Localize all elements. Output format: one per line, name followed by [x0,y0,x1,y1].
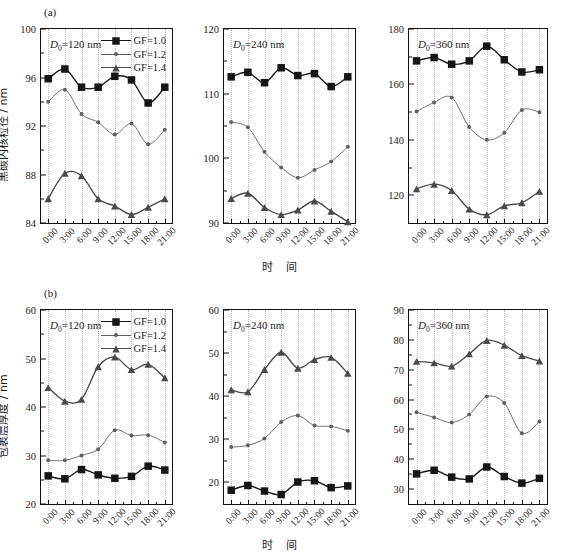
data-point-marker [227,486,235,494]
data-point-marker [536,358,544,365]
y-tick-label: 30 [26,450,42,461]
data-point-marker [44,75,52,83]
data-point-marker [501,56,509,64]
data-point-marker [46,458,50,462]
figure-caption [0,543,564,554]
data-point-marker [296,414,300,418]
data-point-marker [227,195,235,202]
y-tick-label: 90 [394,305,410,316]
plot-area-b-240: 20304050600:003:006:009:0012:0015:0018:0… [223,309,356,505]
legend-marker-icon [110,62,122,74]
data-point-marker [246,125,250,129]
data-point-marker [44,472,52,480]
plot-area-a-240: 901001101200:003:006:009:0012:0015:0018:… [223,28,356,224]
legend: GF=1.0GF=1.2GF=1.4 [101,315,166,356]
x-tick-label: 21:00 [530,506,552,528]
y-tick-label: 70 [394,364,410,375]
y-tick-label: 180 [388,24,409,35]
data-point-marker [296,176,300,180]
y-axis-label-b: 包裹层厚度 / nm [0,374,10,457]
data-point-marker [78,466,86,474]
legend-marker-icon [110,35,122,47]
data-point-marker [312,168,316,172]
data-point-marker [246,443,250,447]
data-point-marker [263,436,267,440]
y-tick-label: 120 [388,190,409,201]
series-layer [409,310,547,504]
data-point-marker [465,475,473,483]
legend-label: GF=1.4 [134,342,166,356]
data-point-marker [448,473,456,481]
series-line [231,193,348,222]
data-point-marker [61,170,69,177]
data-point-marker [46,100,50,104]
data-point-marker [229,120,233,124]
data-point-marker [44,384,52,391]
data-point-marker [518,352,526,359]
data-point-marker [80,112,84,116]
y-tick-label: 100 [203,153,224,164]
x-tick-label: 12:00 [477,225,499,247]
data-point-marker [61,398,69,405]
data-point-marker [501,342,509,349]
plot-area-b-120: 20304050600:003:006:009:0012:0015:0018:0… [40,309,173,505]
legend-item: GF=1.4 [101,342,166,356]
panel-a-360: 1201401601800:003:006:009:0012:0015:0018… [368,4,564,266]
figure-row-a: (a) 黑碳内核粒径 / nm 848892961000:003:006:009… [0,4,564,266]
data-point-marker [520,431,524,435]
y-tick-label: 40 [26,402,42,413]
x-tick-label: 0:00 [224,507,243,526]
data-point-marker [327,83,335,91]
data-point-marker [312,424,316,428]
data-point-marker [485,395,489,399]
data-point-marker [502,401,506,405]
y-tick-label: 100 [20,24,41,35]
y-tick-label: 50 [26,353,42,364]
data-point-marker [161,83,169,91]
panel-b-240: 20304050600:003:006:009:0012:0015:0018:0… [183,285,371,547]
x-tick-label: 3:00 [427,226,446,245]
x-tick-label: 3:00 [427,507,446,526]
data-point-marker [61,65,69,73]
y-axis-label-a: 黑碳内核粒径 / nm [0,88,10,182]
legend-line-swatch [101,67,131,68]
data-point-marker [144,462,152,470]
data-point-marker [346,145,350,149]
panel-label-b: (b) [44,287,57,299]
data-point-marker [227,73,235,81]
data-point-marker [129,122,133,126]
y-tick-label: 140 [388,134,409,145]
series-layer [224,310,355,504]
y-tick-label: 50 [394,424,410,435]
data-point-marker [537,420,541,424]
figure-root: (a) 黑碳内核粒径 / nm 848892961000:003:006:009… [0,0,564,554]
data-point-marker [483,463,491,471]
data-point-marker [467,125,471,129]
panel-b-360: 304050607080900:003:006:009:0012:0015:00… [368,285,564,547]
y-tick-label: 30 [394,484,410,495]
data-point-marker [44,195,52,202]
legend-item: GF=1.2 [101,48,166,62]
x-tick-label: 3:00 [58,226,77,245]
y-tick-label: 92 [26,121,42,132]
data-point-marker [261,79,269,87]
data-point-marker [329,424,333,428]
y-tick-label: 90 [209,218,225,229]
y-tick-label: 60 [209,305,225,316]
series-line [48,89,165,144]
data-point-marker [448,60,456,68]
legend-line-swatch [101,321,131,322]
data-point-marker [311,356,319,363]
data-point-marker [128,473,136,481]
data-point-marker [450,421,454,425]
legend-label: GF=1.4 [134,61,166,75]
data-point-marker [415,110,419,114]
data-point-marker [294,207,302,214]
plot-area-a-120: 848892961000:003:006:009:0012:0015:0018:… [40,28,173,224]
y-tick-label: 40 [394,454,410,465]
data-point-marker [63,88,67,92]
data-point-marker [413,57,421,65]
plot-area-b-360: 304050607080900:003:006:009:0012:0015:00… [408,309,548,505]
data-point-marker [146,142,150,146]
legend-marker-icon [110,329,122,341]
